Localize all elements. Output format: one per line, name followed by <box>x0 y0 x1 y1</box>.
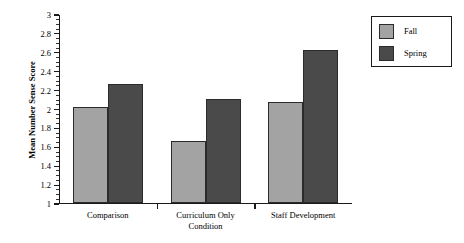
y-tick-minor <box>56 38 59 39</box>
x-tick <box>157 204 158 209</box>
y-tick-minor <box>56 161 59 162</box>
legend-label-spring: Spring <box>404 48 427 58</box>
y-tick-major <box>54 166 59 167</box>
y-tick-minor <box>56 29 59 30</box>
y-tick-label: 1 <box>0 200 51 209</box>
y-tick-label: 3 <box>0 11 51 20</box>
y-tick-minor <box>56 104 59 105</box>
x-category-label: Staff Development <box>271 210 335 220</box>
y-tick-minor <box>56 81 59 82</box>
x-tick <box>254 204 255 209</box>
bar-fall-comparison <box>73 107 108 202</box>
y-tick-minor <box>56 189 59 190</box>
legend-item-fall: Fall <box>379 23 417 39</box>
y-tick-major <box>54 203 59 204</box>
chart-legend: Fall Spring <box>371 16 452 67</box>
y-tick-minor <box>56 180 59 181</box>
x-category-label: Curriculum Only <box>176 210 234 220</box>
y-tick-major <box>54 185 59 186</box>
legend-swatch-fall <box>379 24 394 39</box>
legend-swatch-spring <box>379 46 394 61</box>
y-tick-major <box>54 109 59 110</box>
y-tick-label: 2.2 <box>0 86 51 95</box>
y-tick-minor <box>56 19 59 20</box>
y-tick-major <box>54 147 59 148</box>
plot-area <box>59 15 352 204</box>
bar-chart-figure: Mean Number Sense Score 11.21.41.61.822.… <box>0 0 464 243</box>
y-tick-label: 1.8 <box>0 124 51 133</box>
y-tick-minor <box>56 57 59 58</box>
y-axis-line <box>59 15 60 204</box>
y-tick-minor <box>56 137 59 138</box>
y-tick-minor <box>56 175 59 176</box>
y-tick-minor <box>56 24 59 25</box>
y-tick-label: 1.4 <box>0 162 51 171</box>
y-tick-major <box>54 33 59 34</box>
y-tick-label: 1.6 <box>0 143 51 152</box>
y-tick-minor <box>56 100 59 101</box>
x-axis-line <box>59 203 352 204</box>
legend-label-fall: Fall <box>404 26 417 36</box>
y-tick-minor <box>56 123 59 124</box>
y-tick-major <box>54 52 59 53</box>
y-tick-major <box>54 128 59 129</box>
bar-spring-curriculum-only <box>206 99 241 203</box>
y-tick-label: 2.4 <box>0 67 51 76</box>
bar-fall-staff-development <box>268 102 303 202</box>
y-tick-minor <box>56 142 59 143</box>
y-tick-major <box>54 71 59 72</box>
y-tick-label: 2.6 <box>0 49 51 58</box>
y-tick-minor <box>56 114 59 115</box>
bar-spring-comparison <box>108 84 143 203</box>
y-tick-minor <box>56 156 59 157</box>
y-tick-minor <box>56 118 59 119</box>
y-tick-label: 1.2 <box>0 181 51 190</box>
y-tick-minor <box>56 133 59 134</box>
y-tick-label: 2 <box>0 105 51 114</box>
legend-item-spring: Spring <box>379 45 427 61</box>
bar-fall-curriculum-only <box>171 141 206 202</box>
y-tick-minor <box>56 43 59 44</box>
y-tick-minor <box>56 85 59 86</box>
y-tick-minor <box>56 66 59 67</box>
y-tick-minor <box>56 62 59 63</box>
y-tick-minor <box>56 152 59 153</box>
bar-spring-staff-development <box>303 50 338 203</box>
y-tick-major <box>54 90 59 91</box>
y-tick-minor <box>56 194 59 195</box>
y-tick-label: 2.8 <box>0 30 51 39</box>
y-tick-minor <box>56 170 59 171</box>
y-tick-minor <box>56 76 59 77</box>
x-category-label: Comparison <box>87 210 129 220</box>
y-tick-minor <box>56 95 59 96</box>
y-tick-major <box>54 14 59 15</box>
x-axis-title: Condition <box>188 221 222 231</box>
y-tick-minor <box>56 48 59 49</box>
y-tick-minor <box>56 199 59 200</box>
